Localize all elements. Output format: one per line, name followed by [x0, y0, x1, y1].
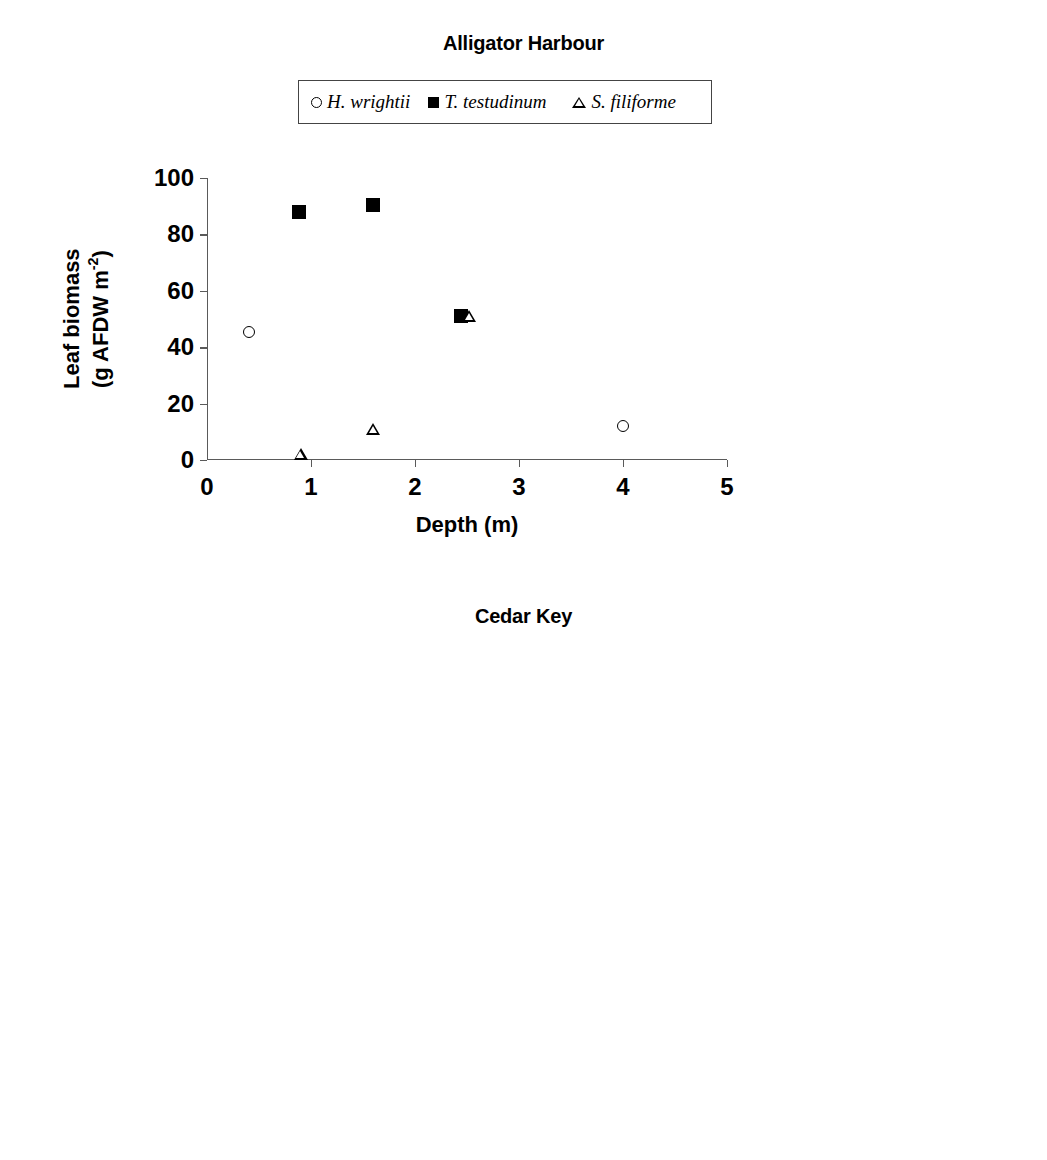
x-axis-tick-label: 1: [304, 473, 317, 501]
x-axis-tick-label: 5: [720, 473, 733, 501]
open-circle-icon: [311, 97, 322, 108]
data-point-t-testudinum: [366, 198, 380, 212]
x-axis-tick-label: 3: [512, 473, 525, 501]
y-axis-tick-label: 0: [181, 446, 194, 474]
y-axis-tick-label: 80: [167, 220, 194, 248]
y-axis-tick: [200, 291, 207, 292]
y-axis-tick: [200, 460, 207, 461]
chart-panel-cedar-key: Cedar Key H. wrightii T. testudinum S. f…: [0, 575, 1047, 1135]
y-axis-title: Leaf biomass (g AFDW m-2): [59, 172, 114, 466]
data-point-s-filiforme: [294, 448, 308, 460]
y-axis-title-line1: Leaf biomass: [59, 249, 84, 390]
y-axis-title-line2: (g AFDW m-2): [88, 250, 113, 388]
chart-title: Cedar Key: [0, 605, 1047, 628]
legend-label: T. testudinum: [444, 91, 546, 113]
data-point-t-testudinum: [292, 205, 306, 219]
data-point-s-filiforme: [366, 423, 380, 435]
y-axis-tick: [200, 234, 207, 235]
data-point-h-wrightii: [617, 420, 629, 432]
legend-label: H. wrightii: [327, 91, 410, 113]
y-axis-tick-label: 100: [154, 164, 194, 192]
x-axis-title: Depth (m): [207, 512, 727, 538]
x-axis-tick: [727, 460, 728, 467]
x-axis-tick: [519, 460, 520, 467]
legend-label: S. filiforme: [591, 91, 675, 113]
y-axis-tick-label: 40: [167, 333, 194, 361]
figure-container: Alligator Harbour H. wrightii T. testudi…: [0, 0, 1047, 1160]
open-triangle-icon: [572, 97, 586, 108]
legend-entry-s-filiforme: S. filiforme: [572, 91, 675, 113]
legend-entry-h-wrightii: H. wrightii: [311, 91, 410, 113]
filled-square-icon: [428, 97, 439, 108]
x-axis-tick: [311, 460, 312, 467]
y-axis-tick: [200, 178, 207, 179]
plot-area: Leaf biomass (g AFDW m-2) Depth (m) 0204…: [207, 178, 727, 460]
x-axis-line: [207, 459, 727, 460]
chart-panel-alligator-harbour: Alligator Harbour H. wrightii T. testudi…: [0, 0, 1047, 560]
y-axis-tick: [200, 347, 207, 348]
x-axis-tick: [415, 460, 416, 467]
y-axis-tick: [200, 404, 207, 405]
chart-legend: H. wrightii T. testudinum S. filiforme: [298, 80, 712, 124]
x-axis-tick-label: 4: [616, 473, 629, 501]
x-axis-tick-label: 2: [408, 473, 421, 501]
data-point-s-filiforme: [462, 310, 476, 322]
legend-entry-t-testudinum: T. testudinum: [428, 91, 546, 113]
x-axis-tick-label: 0: [200, 473, 213, 501]
y-axis-tick-label: 60: [167, 277, 194, 305]
y-axis-line: [207, 178, 208, 460]
figure-caption: [40, 1136, 1010, 1158]
x-axis-tick: [623, 460, 624, 467]
chart-title: Alligator Harbour: [0, 32, 1047, 55]
y-axis-tick-label: 20: [167, 390, 194, 418]
data-point-h-wrightii: [243, 326, 255, 338]
